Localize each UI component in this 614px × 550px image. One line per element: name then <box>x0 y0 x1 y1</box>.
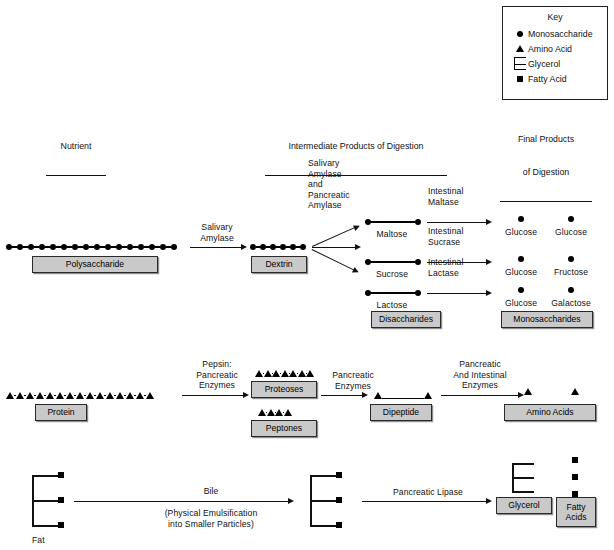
header-final-line2: of Digestion <box>500 167 592 178</box>
monosaccharide-circle-icon <box>300 244 306 250</box>
bond-line <box>382 398 424 400</box>
amino-acid-triangle-icon <box>136 392 144 399</box>
arrow-line <box>427 222 487 223</box>
fat-label: Fat <box>32 535 45 546</box>
glycerol-tooth <box>512 491 534 493</box>
arrow-line <box>362 501 487 502</box>
monosaccharides-box: Monosaccharides <box>501 311 593 328</box>
amino-acid-triangle-icon <box>264 370 272 377</box>
key-item-glycerol: Glycerol <box>512 56 607 71</box>
fatty-acid-square-icon <box>58 497 64 503</box>
fatty-acid-square-icon <box>336 522 342 528</box>
arrow-line <box>74 501 290 502</box>
header-nutrient-label: Nutrient <box>46 141 106 152</box>
monosaccharide-circle-icon <box>512 31 528 37</box>
fatty-acid-square-icon <box>58 522 64 528</box>
arrow-head <box>288 498 294 504</box>
product-label: Fructose <box>545 267 597 278</box>
amino-acid-triangle-icon <box>284 409 292 416</box>
monosaccharide-circle-icon <box>415 290 421 296</box>
amino-acid-triangle-icon <box>66 392 74 399</box>
fatty-acids-box: Fatty Acids <box>556 497 596 527</box>
key-item-label: Glycerol <box>528 59 560 69</box>
glucose-dot <box>518 256 524 262</box>
bile-note-label: (Physical Emulsification into Smaller Pa… <box>146 508 276 529</box>
arrow-line <box>427 293 487 294</box>
fatty-acid-square-icon <box>572 474 578 480</box>
polysaccharide-chain <box>6 244 177 250</box>
enzyme-intestinal-maltase-label: Intestinal Maltase <box>428 186 488 207</box>
key-item-label: Fatty Acid <box>528 74 567 84</box>
amino-acid-triangle-icon <box>289 370 297 377</box>
amino-acid-triangle-icon <box>424 392 432 399</box>
amino-acid-triangle-icon <box>26 392 34 399</box>
key-legend: Key Monosaccharide Amino Acid Glycerol F… <box>502 6 608 100</box>
peptones-chain <box>258 409 292 416</box>
enzyme-pancreatic-intestinal-label: Pancreatic And Intestinal Enzymes <box>431 359 529 391</box>
amino-acid-triangle-icon <box>267 409 275 416</box>
amino-acid-triangle-icon <box>96 392 104 399</box>
fatty-acid-square-icon <box>336 472 342 478</box>
glycerol-molecule <box>512 463 536 493</box>
arrow-head <box>486 498 492 504</box>
amino-acid-triangle-icon <box>571 388 579 395</box>
polysaccharide-box: Polysaccharide <box>32 256 158 273</box>
amino-acid-triangle-icon <box>56 392 64 399</box>
header-final: Final Products of Digestion <box>500 112 592 224</box>
sucrose-label: Sucrose <box>363 269 421 280</box>
enzyme-pepsin-pancreatic-label: Pepsin: Pancreatic Enzymes <box>176 359 258 391</box>
monosaccharide-circle-icon <box>415 259 421 265</box>
fat-tooth <box>310 475 338 477</box>
amino-acid-triangle-icon <box>281 370 289 377</box>
enzyme-intestinal-lactase-label: Intestinal Lactase <box>428 257 488 278</box>
enzyme-intestinal-sucrase-label: Intestinal Sucrase <box>428 226 488 247</box>
sucrose-molecule <box>365 259 421 265</box>
branch-arrow-head-sucrose <box>355 244 361 250</box>
amino-acid-triangle-icon <box>36 392 44 399</box>
amino-acids-box: Amino Acids <box>504 404 596 421</box>
glucose-dot <box>518 287 524 293</box>
key-title: Key <box>503 12 607 22</box>
proteoses-chain <box>255 370 314 377</box>
arrow-line <box>321 395 363 396</box>
arrow-head <box>486 219 492 225</box>
glycerol-tooth <box>512 463 534 465</box>
bond-line <box>371 221 415 223</box>
product-label: Galactose <box>544 298 598 309</box>
monosaccharide-circle-icon <box>415 219 421 225</box>
header-nutrient: Nutrient <box>46 119 106 198</box>
key-item-amino-acid: Amino Acid <box>512 41 607 56</box>
arrow-head <box>241 244 247 250</box>
fat-tooth <box>310 500 338 502</box>
header-intermediate-label: Intermediate Products of Digestion <box>265 141 447 152</box>
branch-arrow-line-lactose <box>311 249 357 272</box>
arrow-line <box>182 395 244 396</box>
arrow-head <box>486 290 492 296</box>
amino-acid-triangle-icon <box>374 392 382 399</box>
branch-arrow-head-maltose <box>353 223 361 231</box>
key-item-fatty-acid: Fatty Acid <box>512 71 607 86</box>
key-item-label: Monosaccharide <box>528 29 593 39</box>
amino-acid-triangle-icon <box>126 392 134 399</box>
product-label: Glucose <box>547 227 595 238</box>
enzyme-salivary-pancreatic-amylase-label: Salivary Amylase and Pancreatic Amylase <box>308 158 386 211</box>
dextrin-chain <box>250 244 306 250</box>
lactose-label: Lactose <box>363 300 421 311</box>
amino-acid-triangle-icon <box>76 392 84 399</box>
monosaccharide-circle-icon <box>171 244 177 250</box>
amino-acid-triangle-icon <box>255 370 263 377</box>
amino-acid-triangle-icon <box>306 370 314 377</box>
fat-tooth <box>32 525 60 527</box>
enzyme-salivary-amylase-label: Salivary Amylase <box>180 222 254 243</box>
fatty-acid-square-icon <box>58 472 64 478</box>
amino-acid-triangle-icon <box>146 392 154 399</box>
dipeptide-box: Dipeptide <box>370 404 432 421</box>
arrow-head <box>243 392 249 398</box>
protein-box: Protein <box>35 404 87 421</box>
glycerol-tooth <box>512 477 534 479</box>
amino-acid-triangle-icon <box>258 409 266 416</box>
product-label: Glucose <box>497 227 545 238</box>
digestion-diagram: Key Monosaccharide Amino Acid Glycerol F… <box>0 0 614 550</box>
proteoses-box: Proteoses <box>251 381 317 398</box>
enzyme-pancreatic-label: Pancreatic Enzymes <box>320 370 386 391</box>
